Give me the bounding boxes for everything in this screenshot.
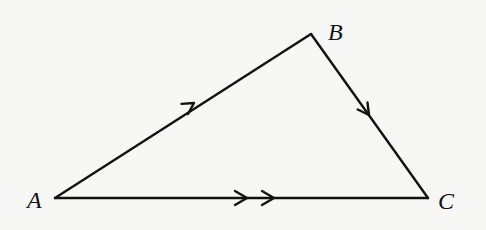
vertex-label-a: A <box>25 187 42 213</box>
vertex-label-c: C <box>438 188 455 214</box>
vector-triangle-diagram: A B C <box>0 0 486 230</box>
edge-ab <box>55 34 311 198</box>
arrowhead-ab-icon <box>182 98 198 114</box>
vertex-label-b: B <box>328 19 343 45</box>
